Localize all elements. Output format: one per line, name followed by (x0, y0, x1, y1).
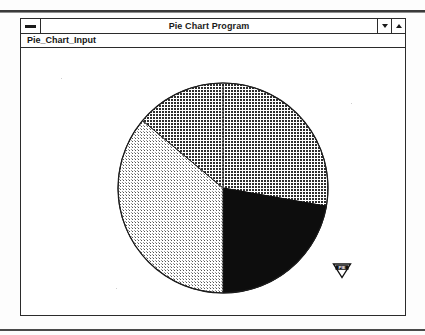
scan-speck (61, 78, 62, 79)
scan-speck (351, 103, 352, 104)
scan-speck (116, 288, 117, 289)
page-rule-bottom (0, 329, 425, 331)
window-menu-button[interactable] (21, 19, 41, 33)
pie-slice-2 (223, 188, 326, 293)
chart-canvas[interactable]: PIE (21, 48, 405, 315)
title-bar: Pie Chart Program (21, 19, 405, 34)
minimize-button[interactable] (377, 19, 391, 33)
triangle-up-icon (396, 24, 402, 28)
menu-bar: Pie_Chart_Input (21, 34, 405, 48)
pie-pointer-label: PIE (338, 265, 345, 270)
triangle-down-icon (382, 24, 388, 28)
page-rule-top-2 (0, 12, 425, 13)
menu-item-pie-chart-input[interactable]: Pie_Chart_Input (24, 34, 99, 47)
application-window: Pie Chart Program Pie_Chart_Input (20, 18, 406, 316)
window-title: Pie Chart Program (41, 19, 377, 33)
scanned-page: Pie Chart Program Pie_Chart_Input (0, 0, 425, 335)
window-menu-dash-icon (25, 25, 36, 28)
pie-pointer-icon[interactable]: PIE (332, 261, 352, 279)
pie-slice-1 (223, 83, 328, 206)
maximize-button[interactable] (391, 19, 405, 33)
